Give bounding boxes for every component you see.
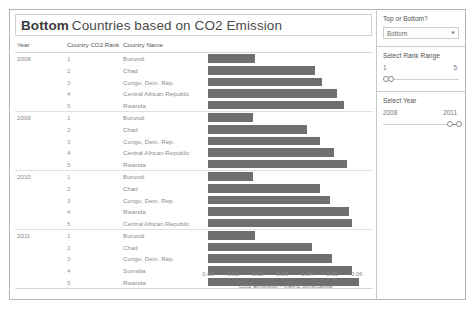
table-row[interactable]: 3Congo, Dem. Rep.: [15, 76, 373, 88]
bar-track: [208, 113, 363, 122]
row-rank: 3: [67, 255, 70, 262]
row-country-name: Rwanda: [123, 161, 146, 168]
bar[interactable]: [208, 148, 334, 157]
table-row[interactable]: 4Rwanda: [15, 206, 373, 218]
bar[interactable]: [208, 160, 347, 169]
row-rank: 1: [67, 55, 70, 62]
rank-slider-track[interactable]: [383, 79, 459, 80]
filter-card-rank-range: Select Rank Range 1 5: [377, 47, 465, 92]
worksheet-title: Bottom Countries based on CO2 Emission: [15, 14, 372, 36]
bar[interactable]: [208, 196, 330, 205]
bar[interactable]: [208, 243, 312, 252]
year-range-max-value: 2011: [443, 109, 457, 116]
row-country-name: Congo, Dem. Rep.: [123, 197, 174, 204]
bar[interactable]: [208, 184, 320, 193]
row-country-name: Rwanda: [123, 208, 146, 215]
bar-track: [208, 254, 363, 263]
chart-rows-area: 20081Burundi2Chad3Congo, Dem. Rep.4Centr…: [15, 53, 373, 289]
bar-track: [208, 196, 363, 205]
bar-track: [208, 172, 363, 181]
bar[interactable]: [208, 78, 322, 87]
top-bottom-selected-value: Bottom: [387, 30, 407, 37]
bar[interactable]: [208, 172, 253, 181]
table-row[interactable]: 3Congo, Dem. Rep.: [15, 253, 373, 265]
year-slider-handle-low[interactable]: [447, 121, 453, 127]
table-row[interactable]: 4Central African Republic: [15, 147, 373, 159]
row-country-name: Congo, Dem. Rep.: [123, 79, 174, 86]
bar-track: [208, 160, 363, 169]
x-tick-label: 0.06: [351, 271, 363, 277]
row-rank: 3: [67, 197, 70, 204]
row-rank: 3: [67, 138, 70, 145]
table-row[interactable]: 2Chad: [15, 183, 373, 195]
table-row[interactable]: 1Burundi: [15, 53, 373, 65]
x-tick-label: 0.00: [202, 271, 214, 277]
bar-track: [208, 89, 363, 98]
table-row[interactable]: 3Congo, Dem. Rep.: [15, 135, 373, 147]
bar-track: [208, 66, 363, 75]
x-axis: 0.000.010.020.030.040.050.06 CO2 Emissio…: [15, 269, 373, 295]
rank-range-values: 1 5: [383, 64, 459, 73]
year-range-slider[interactable]: [383, 119, 459, 129]
table-row[interactable]: 3Congo, Dem. Rep.: [15, 194, 373, 206]
row-rank: 2: [67, 244, 70, 251]
year-range-values: 2008 2011: [383, 109, 459, 118]
x-axis-title: CO2 Emission - metric tons/capita: [208, 282, 363, 289]
bar-track: [208, 243, 363, 252]
row-rank: 3: [67, 79, 70, 86]
rank-range-max-value: 5: [453, 64, 457, 71]
table-row[interactable]: 5Rwanda: [15, 158, 373, 170]
title-parameter-value: Bottom: [21, 18, 69, 33]
bar-track: [208, 207, 363, 216]
table-row[interactable]: 1Burundi: [15, 112, 373, 124]
bar[interactable]: [208, 137, 320, 146]
column-header-country: Country Name: [123, 41, 163, 48]
bar-track: [208, 137, 363, 146]
row-rank: 1: [67, 232, 70, 239]
row-country-name: Central African Republic: [123, 90, 189, 97]
bar[interactable]: [208, 89, 337, 98]
bar[interactable]: [208, 207, 349, 216]
row-rank: 4: [67, 149, 70, 156]
row-country-name: Rwanda: [123, 102, 146, 109]
column-header-year: Year: [17, 41, 30, 48]
bar[interactable]: [208, 101, 344, 110]
table-row[interactable]: 1Burundi: [15, 171, 373, 183]
bar[interactable]: [208, 219, 352, 228]
rank-range-slider[interactable]: [383, 74, 459, 84]
year-group: 20091Burundi2Chad3Congo, Dem. Rep.4Centr…: [15, 112, 373, 171]
bar[interactable]: [208, 254, 332, 263]
row-country-name: Burundi: [123, 232, 144, 239]
chevron-down-icon: [451, 32, 455, 35]
bar[interactable]: [208, 231, 255, 240]
row-country-name: Chad: [123, 185, 138, 192]
year-slider-handle-high[interactable]: [456, 121, 462, 127]
table-row[interactable]: 1Burundi: [15, 230, 373, 242]
x-tick-label: 0.03: [277, 271, 289, 277]
x-tick-label: 0.02: [252, 271, 264, 277]
bar[interactable]: [208, 125, 307, 134]
table-row[interactable]: 5Rwanda: [15, 99, 373, 111]
bar[interactable]: [208, 66, 315, 75]
table-row[interactable]: 5Central African Republic: [15, 217, 373, 229]
table-row[interactable]: 2Chad: [15, 65, 373, 77]
rank-range-min-value: 1: [383, 64, 387, 71]
bar-track: [208, 148, 363, 157]
filter-label-year-range: Select Year: [383, 97, 459, 104]
dashboard-screenshot: Bottom Countries based on CO2 Emission Y…: [0, 0, 476, 313]
bar-track: [208, 231, 363, 240]
row-country-name: Burundi: [123, 114, 144, 121]
table-row[interactable]: 2Chad: [15, 124, 373, 136]
filter-label-top-bottom: Top or Bottom?: [383, 15, 459, 22]
row-country-name: Burundi: [123, 55, 144, 62]
top-bottom-dropdown[interactable]: Bottom: [383, 27, 459, 39]
table-row[interactable]: 2Chad: [15, 242, 373, 254]
row-rank: 1: [67, 114, 70, 121]
row-rank: 4: [67, 208, 70, 215]
table-row[interactable]: 4Central African Republic: [15, 88, 373, 100]
rank-slider-handle-high[interactable]: [388, 76, 394, 82]
row-rank: 5: [67, 220, 70, 227]
bar[interactable]: [208, 54, 255, 63]
bar[interactable]: [208, 113, 253, 122]
x-axis-ticks: 0.000.010.020.030.040.050.06: [208, 271, 363, 281]
